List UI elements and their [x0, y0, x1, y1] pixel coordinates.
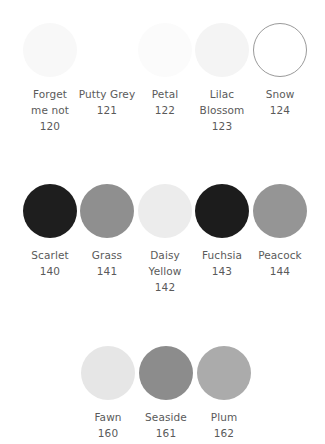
color-swatch: Grass141 — [78, 184, 136, 279]
swatch-label: DaisyYellow142 — [149, 247, 182, 295]
color-circle — [195, 184, 249, 238]
swatch-name: Daisy — [149, 247, 182, 263]
swatch-code: 141 — [92, 263, 122, 279]
swatch-label: Fuchsia143 — [202, 247, 242, 279]
color-circle — [81, 346, 135, 400]
color-circle — [23, 184, 77, 238]
swatch-code: 160 — [94, 425, 121, 441]
color-swatch: Peacock144 — [251, 184, 309, 279]
swatch-label: Snow124 — [266, 86, 295, 118]
color-circle — [253, 184, 307, 238]
color-circle — [80, 184, 134, 238]
swatch-code: 120 — [31, 118, 69, 134]
swatch-code: 161 — [145, 425, 187, 441]
color-circle — [139, 346, 193, 400]
swatch-name: Plum — [211, 409, 238, 425]
color-swatch: Fuchsia143 — [193, 184, 251, 279]
color-swatch: Petal122 — [136, 23, 194, 118]
swatch-label: Peacock144 — [258, 247, 302, 279]
color-swatch: LilacBlossom123 — [193, 23, 251, 134]
color-swatch: Seaside161 — [137, 346, 195, 441]
color-swatch: Snow124 — [251, 23, 309, 118]
swatch-name: Petal — [152, 86, 178, 102]
swatch-label: Fawn160 — [94, 409, 121, 441]
swatch-code: 123 — [200, 118, 245, 134]
swatch-code: 121 — [79, 102, 135, 118]
swatch-label: LilacBlossom123 — [200, 86, 245, 134]
swatch-code: 142 — [149, 279, 182, 295]
swatch-name: Seaside — [145, 409, 187, 425]
swatch-name: Fawn — [94, 409, 121, 425]
swatch-name: me not — [31, 102, 69, 118]
swatch-name: Lilac — [200, 86, 245, 102]
color-circle — [197, 346, 251, 400]
swatch-label: Putty Grey121 — [79, 86, 135, 118]
color-circle — [80, 23, 134, 77]
swatch-name: Forget — [31, 86, 69, 102]
color-circle — [138, 23, 192, 77]
color-swatch: Fawn160 — [79, 346, 137, 441]
color-swatch: Putty Grey121 — [78, 23, 136, 118]
color-swatch: DaisyYellow142 — [136, 184, 194, 295]
swatch-code: 140 — [31, 263, 68, 279]
swatch-name: Blossom — [200, 102, 245, 118]
swatch-code: 143 — [202, 263, 242, 279]
swatch-name: Fuchsia — [202, 247, 242, 263]
swatch-label: Plum162 — [211, 409, 238, 441]
color-swatch: Scarlet140 — [21, 184, 79, 279]
swatch-label: Scarlet140 — [31, 247, 68, 279]
color-circle — [253, 23, 307, 77]
swatch-name: Grass — [92, 247, 122, 263]
swatch-name: Snow — [266, 86, 295, 102]
color-swatch: Plum162 — [195, 346, 253, 441]
swatch-name: Yellow — [149, 263, 182, 279]
swatch-name: Peacock — [258, 247, 302, 263]
swatch-label: Forgetme not120 — [31, 86, 69, 134]
swatch-label: Seaside161 — [145, 409, 187, 441]
color-swatch: Forgetme not120 — [21, 23, 79, 134]
swatch-code: 124 — [266, 102, 295, 118]
swatch-name: Scarlet — [31, 247, 68, 263]
swatch-label: Petal122 — [152, 86, 178, 118]
swatch-name: Putty Grey — [79, 86, 135, 102]
swatch-label: Grass141 — [92, 247, 122, 279]
color-circle — [195, 23, 249, 77]
color-circle — [23, 23, 77, 77]
swatch-code: 144 — [258, 263, 302, 279]
color-circle — [138, 184, 192, 238]
swatch-code: 162 — [211, 425, 238, 441]
swatch-code: 122 — [152, 102, 178, 118]
